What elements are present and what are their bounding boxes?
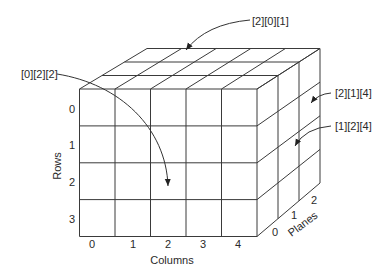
- callout-0-2-2: [0][2][2]: [21, 68, 168, 186]
- callout-label: [1][2][4]: [335, 120, 372, 132]
- right-face-gridline: [257, 149, 320, 199]
- column-tick-3: 3: [200, 238, 206, 250]
- array-3d-diagram: 0 1 2 3 Rows 0 1 2 3 4 Columns 0 1 2 Pla…: [0, 0, 388, 275]
- plane-tick-0: 0: [272, 226, 278, 238]
- rows-axis: 0 1 2 3 Rows: [51, 103, 75, 225]
- row-tick-3: 3: [69, 213, 75, 225]
- callout-arrow: [295, 126, 331, 146]
- callout-label: [0][2][2]: [21, 68, 58, 80]
- callout-arrow: [186, 20, 250, 50]
- callout-arrow: [311, 93, 331, 103]
- row-tick-0: 0: [69, 103, 75, 115]
- rows-axis-title: Rows: [51, 152, 63, 180]
- callout-label: [2][1][4]: [335, 87, 372, 99]
- callout-label: [2][0][1]: [252, 15, 289, 27]
- right-face-gridline: [257, 49, 320, 90]
- callout-1-2-4: [1][2][4]: [295, 120, 372, 146]
- top-face-gridline: [186, 49, 251, 90]
- column-tick-4: 4: [235, 238, 241, 250]
- top-face-gridline: [115, 49, 182, 90]
- right-face-gridline: [257, 82, 320, 126]
- row-tick-2: 2: [69, 176, 75, 188]
- right-face-gridline: [257, 116, 320, 163]
- callout-2-0-1: [2][0][1]: [186, 15, 289, 50]
- top-face-gridline: [151, 49, 217, 90]
- planes-axis: 0 1 2 Planes: [272, 194, 320, 239]
- cube-canvas: 0 1 2 3 Rows 0 1 2 3 4 Columns 0 1 2 Pla…: [0, 0, 388, 275]
- columns-axis-title: Columns: [150, 254, 194, 266]
- callout-arrow: [57, 74, 168, 186]
- cube-grid: [80, 49, 321, 237]
- column-tick-1: 1: [130, 238, 136, 250]
- column-tick-2: 2: [165, 238, 171, 250]
- plane-tick-2: 2: [311, 194, 317, 206]
- top-face-gridline: [222, 49, 286, 90]
- columns-axis: 0 1 2 3 4 Columns: [89, 238, 241, 266]
- column-tick-0: 0: [89, 238, 95, 250]
- plane-tick-1: 1: [291, 209, 297, 221]
- row-tick-1: 1: [69, 139, 75, 151]
